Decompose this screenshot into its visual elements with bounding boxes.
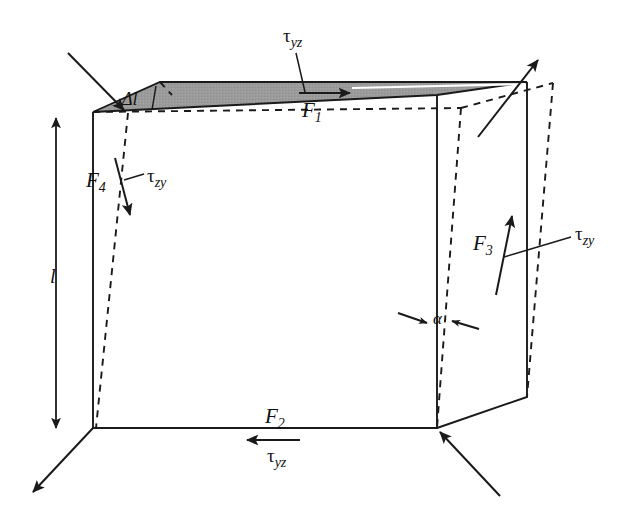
alpha-arrow-right: [452, 321, 479, 329]
reaction-arrow-top-right: [478, 60, 538, 137]
hidden-edge-rear-vertical: [437, 108, 461, 428]
tau-zy-left-leader: [124, 174, 144, 180]
cube-front-face: [93, 95, 437, 428]
tau-zy-right-label: τzy: [575, 223, 595, 248]
force-label-f1: F1: [301, 98, 322, 125]
force-label-f4: F4: [85, 168, 106, 195]
edge-length-label: l: [50, 265, 56, 287]
tau-zy-left-label: τzy: [147, 165, 167, 190]
shear-deformation-diagram: F1 τyz F2 τyz F3 τzy F4: [0, 0, 633, 514]
reaction-arrow-bottom-left: [33, 428, 93, 492]
alpha-arrow-left: [398, 313, 427, 323]
shear-angle-label: α: [433, 309, 443, 328]
tau-zy-right-leader: [504, 237, 571, 257]
reaction-arrow-bottom-right: [440, 432, 500, 496]
tau-yz-bottom-label: τyz: [267, 445, 287, 470]
undeformed-edge-left: [96, 113, 128, 428]
tau-yz-top-label: τyz: [283, 25, 303, 50]
delta-l-label: Δl: [121, 89, 138, 109]
force-label-f3: F3: [472, 231, 493, 258]
force-label-f2: F2: [264, 404, 285, 431]
hidden-edge-rear-right-vertical: [527, 83, 553, 397]
reaction-arrow-top-left: [68, 53, 124, 110]
figure-canvas: F1 τyz F2 τyz F3 τzy F4: [0, 0, 633, 514]
